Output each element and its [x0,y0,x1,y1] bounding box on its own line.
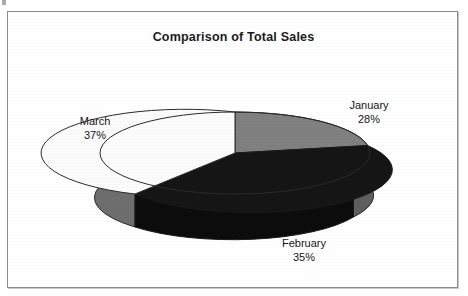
scan-artifact-speck [2,0,6,5]
pie-chart-graphic [8,12,459,289]
pie-label-january-value: 28% [326,112,412,126]
pie-label-march-name: March [52,114,138,128]
pie-label-january: January 28% [326,98,412,126]
pie-label-february: February 35% [254,236,354,264]
pie-label-february-name: February [254,236,354,250]
chart-frame: Comparison of Total Sales January 28% Fe… [7,11,458,288]
pie-label-january-name: January [326,98,412,112]
pie-label-march: March 37% [52,114,138,142]
pie-label-february-value: 35% [254,250,354,264]
pie-label-march-value: 37% [52,128,138,142]
